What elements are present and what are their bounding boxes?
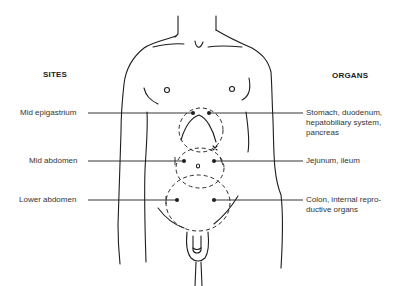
dot-mid-epigastrium	[191, 111, 195, 115]
right-arm-inner	[242, 78, 250, 100]
left-arm-inner	[144, 88, 158, 104]
site-label-lower-abdomen: Lower abdomen	[19, 195, 76, 205]
genital-inner	[193, 236, 201, 253]
left-clavicle	[153, 44, 184, 47]
costal-margin	[181, 115, 216, 142]
genital-outline	[186, 232, 208, 261]
organs-heading: ORGANS	[332, 71, 368, 80]
torso-illustration	[0, 0, 416, 286]
site-label-mid-abdomen: Mid abdomen	[29, 156, 77, 166]
organ-label-stomach-line3: pancreas	[306, 128, 382, 138]
left-nipple	[165, 88, 170, 93]
dot-colon	[212, 198, 216, 202]
left-arm-inner-lower	[145, 112, 148, 262]
right-clavicle	[208, 46, 242, 47]
lower-abdomen-circle	[166, 175, 230, 231]
dot-jejunum	[212, 159, 216, 163]
mid-epigastrium-circle	[179, 108, 223, 152]
organ-label-stomach-line1: Stomach, duodenum,	[306, 108, 382, 118]
left-shoulder-outline	[118, 36, 176, 264]
right-arm-inner-lower	[246, 112, 249, 152]
dot-mid-abdomen	[182, 159, 186, 163]
organ-label-jejunum-line1: Jejunum, ileum	[306, 156, 360, 166]
dot-stomach	[207, 111, 211, 115]
dot-lower-abdomen	[175, 198, 179, 202]
umbilicus	[196, 164, 199, 168]
site-label-mid-epigastrium: Mid epigastrium	[20, 108, 76, 118]
mid-abdomen-circle	[176, 148, 224, 188]
sternal-notch	[195, 41, 203, 47]
right-nipple	[230, 87, 235, 92]
organ-label-stomach: Stomach, duodenum, hepatobiliary system,…	[306, 108, 382, 138]
xiphoid-marker	[213, 146, 217, 150]
sites-heading: SITES	[43, 70, 67, 79]
right-shoulder-outline	[216, 30, 283, 268]
organ-label-jejunum: Jejunum, ileum	[306, 156, 360, 166]
neck-left-line	[175, 16, 178, 37]
leg-line-left	[195, 262, 196, 286]
abdominal-sites-diagram: SITES ORGANS Mid epigastrium Mid abdomen…	[0, 0, 416, 286]
leg-line-right	[201, 262, 202, 286]
organ-label-stomach-line2: hepatobiliary system,	[306, 118, 382, 128]
organ-label-colon: Colon, internal repro- ductive organs	[306, 195, 381, 215]
organ-label-colon-line2: ductive organs	[306, 205, 381, 215]
genital-tip	[193, 248, 201, 250]
organ-label-colon-line1: Colon, internal repro-	[306, 195, 381, 205]
